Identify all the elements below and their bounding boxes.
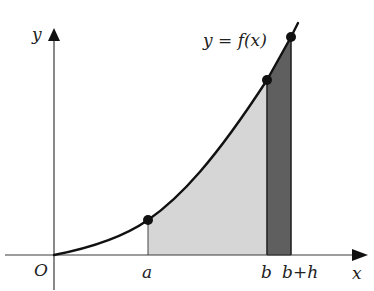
y-axis-label: y	[31, 24, 42, 44]
point-b	[262, 75, 272, 85]
area-diagram: y x O a b b+h y = f(x)	[0, 0, 374, 291]
point-b-plus-h	[286, 32, 296, 42]
y-axis-arrow-icon	[48, 28, 60, 41]
strip-b-to-b-plus-h	[267, 37, 291, 255]
curve-label-rhs: f(x)	[236, 30, 267, 50]
tick-label-b-plus-h: b+h	[282, 262, 318, 282]
tick-label-b: b	[261, 262, 272, 282]
tick-label-a: a	[142, 262, 152, 282]
curve-label-eq: =	[213, 30, 238, 50]
curve-label-lhs: y	[202, 30, 213, 50]
x-axis-label: x	[352, 263, 362, 283]
x-axis-arrow-icon	[352, 249, 368, 261]
origin-label: O	[34, 260, 48, 280]
curve-label: y = f(x)	[202, 30, 267, 50]
point-a	[143, 215, 153, 225]
